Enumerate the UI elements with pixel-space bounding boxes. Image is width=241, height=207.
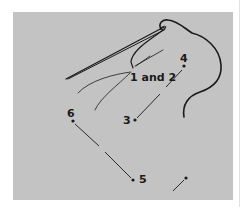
label-6: 6: [67, 107, 75, 120]
point-5: [131, 178, 134, 181]
label-5: 5: [139, 173, 147, 186]
stitch-lines: [75, 70, 184, 191]
point-3: [133, 118, 136, 121]
label-1-and-2: 1 and 2: [130, 71, 176, 84]
stitch-4-3-b: [137, 94, 160, 118]
stitch-diagram: 1 and 2 4 3 6 5: [0, 0, 241, 207]
label-4: 4: [180, 52, 188, 65]
label-3: 3: [123, 114, 131, 127]
point-next: [184, 176, 187, 179]
stitch-next: [173, 180, 184, 191]
stitch-6-5-a: [75, 124, 99, 146]
stitch-6-5-b: [105, 152, 131, 178]
